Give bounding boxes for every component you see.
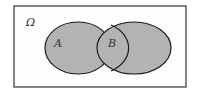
set-b-label: B <box>107 37 116 50</box>
venn-diagram: Ω A B <box>0 0 198 94</box>
set-a-label: A <box>53 37 62 50</box>
universe-label: Ω <box>25 16 35 29</box>
